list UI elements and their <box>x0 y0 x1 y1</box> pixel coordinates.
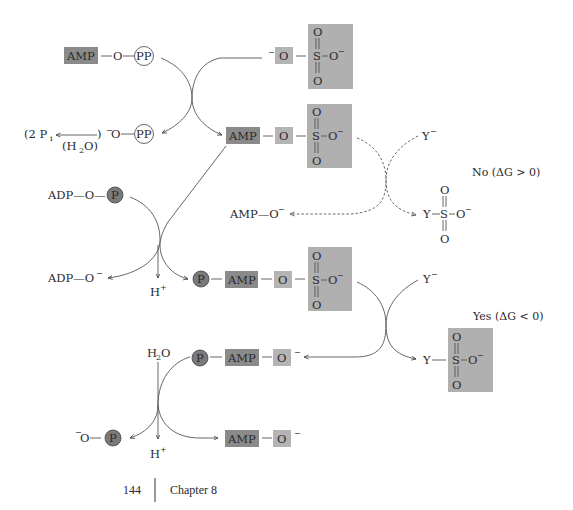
svg-text:AMP: AMP <box>227 273 256 287</box>
svg-text:−: − <box>338 47 345 56</box>
arrow-pp-release <box>161 58 192 133</box>
svg-text:O: O <box>440 183 449 197</box>
svg-text:ADP—O—: ADP—O— <box>47 188 106 202</box>
amp-product-final: AMP O − <box>225 429 301 447</box>
svg-text:−: − <box>430 127 437 136</box>
svg-text:O: O <box>312 154 321 168</box>
o-label: O <box>113 49 122 63</box>
svg-text:O: O <box>312 105 321 119</box>
svg-text:O: O <box>452 330 461 344</box>
svg-text:H: H <box>150 447 160 461</box>
svg-text:P: P <box>196 351 204 365</box>
svg-text:O: O <box>313 25 322 39</box>
svg-text:O: O <box>279 129 288 143</box>
arrow-adp-release <box>108 197 160 278</box>
svg-text:−: − <box>465 205 472 214</box>
svg-text:−: − <box>477 351 484 360</box>
svg-text:O: O <box>80 431 89 445</box>
svg-text:−: − <box>294 429 301 438</box>
page-number: 144 <box>123 483 141 497</box>
svg-text:): ) <box>97 127 102 141</box>
svg-text:AMP: AMP <box>227 351 256 365</box>
chapter-label: Chapter 8 <box>170 483 217 497</box>
dashed-arrow-ys-formation <box>386 136 418 215</box>
arrow-ys-formation <box>386 280 418 359</box>
svg-text:+: + <box>160 445 167 454</box>
verdict-yes: Yes (ΔG < 0) <box>472 310 543 323</box>
nucleophile-y: Y <box>421 129 430 143</box>
svg-text:S: S <box>312 129 320 143</box>
pp-label: PP <box>136 49 152 63</box>
svg-text:O: O <box>278 273 287 287</box>
svg-text:−: − <box>337 127 344 136</box>
svg-text:O: O <box>277 432 286 446</box>
svg-text:Y: Y <box>422 207 431 221</box>
svg-text:+: + <box>160 283 167 292</box>
paps-product: P AMP O O S O − O <box>193 247 352 312</box>
svg-text:O: O <box>312 298 321 312</box>
svg-text:S: S <box>312 273 320 287</box>
svg-text:Y: Y <box>422 353 431 367</box>
svg-text:−: − <box>294 348 301 357</box>
svg-text:AMP: AMP <box>228 129 257 143</box>
svg-text:P: P <box>111 188 119 202</box>
svg-text:O: O <box>161 346 170 360</box>
svg-text:P: P <box>197 272 205 286</box>
aps-product: AMP O O S O − O <box>226 104 352 168</box>
svg-text:H: H <box>150 285 160 299</box>
pyrophosphate-product: (2 P i (H 2 O) ) − O PP <box>24 125 154 156</box>
amp-label: AMP <box>66 49 95 63</box>
svg-text:(2 P: (2 P <box>24 127 47 141</box>
sulfate-activation-diagram: AMP O PP − O O S O − O (2 P i (H 2 O) ) … <box>0 0 573 510</box>
svg-text:(H: (H <box>62 139 77 153</box>
svg-text:−: − <box>268 48 275 57</box>
svg-text:−: − <box>96 269 103 278</box>
svg-text:O): O) <box>84 139 98 153</box>
pap-product: P AMP O − <box>192 348 301 366</box>
svg-text:−: − <box>431 270 438 279</box>
svg-text:O: O <box>452 378 461 392</box>
ys-product-unfavorable: Y O S O − O <box>422 183 472 246</box>
svg-text:−: − <box>278 205 285 214</box>
svg-text:O: O <box>440 232 449 246</box>
phosphate-product: − O P <box>75 428 121 446</box>
svg-text:P: P <box>109 431 117 445</box>
svg-text:S: S <box>313 49 321 63</box>
svg-text:PP: PP <box>136 127 152 141</box>
svg-text:−: − <box>337 271 344 280</box>
sulfate-reactant: − O O S O − O <box>268 24 353 89</box>
arrow-amp-release <box>158 405 218 438</box>
arrow-phosphate-release <box>130 357 190 438</box>
ys-product-favorable: Y O S O − O <box>422 328 493 392</box>
atp-reactant: AMP O PP <box>64 47 154 66</box>
page-footer: 144 Chapter 8 <box>123 478 217 502</box>
svg-text:Y: Y <box>422 272 431 286</box>
verdict-no: No (ΔG > 0) <box>472 166 540 179</box>
svg-text:AMP: AMP <box>227 432 256 446</box>
svg-text:O: O <box>111 127 120 141</box>
svg-text:S: S <box>452 353 460 367</box>
svg-text:O: O <box>277 351 286 365</box>
arrow-aps-formation <box>192 58 262 135</box>
svg-text:ADP—O: ADP—O <box>47 271 94 285</box>
amp-o-product: AMP—O <box>229 207 279 221</box>
svg-text:i: i <box>50 134 53 143</box>
atp-reactant-2: ADP—O— P <box>47 187 123 203</box>
svg-text:O: O <box>312 249 321 263</box>
arrow-paps-formation <box>160 146 226 279</box>
svg-text:O: O <box>279 49 288 63</box>
svg-text:O: O <box>313 74 322 88</box>
svg-text:S: S <box>440 207 448 221</box>
